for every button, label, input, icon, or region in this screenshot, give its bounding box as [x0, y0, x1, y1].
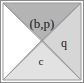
bottom-region-label: c: [39, 55, 44, 67]
right-region-label: q: [61, 36, 67, 50]
quadrant-diagram-svg: (b,p) q c: [0, 0, 84, 83]
top-region-label: (b,p): [30, 16, 55, 31]
diagram-figure: (b,p) q c: [0, 0, 84, 83]
